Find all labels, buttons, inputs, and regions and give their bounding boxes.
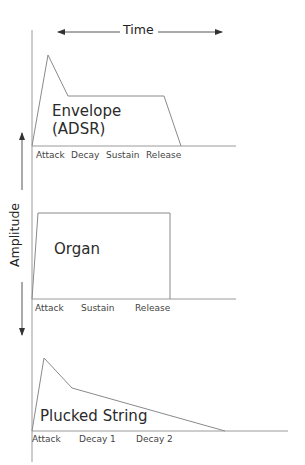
adsr-phase-release: Release [146, 150, 181, 160]
adsr-phase-attack: Attack [36, 150, 65, 160]
plucked-phase-attack: Attack [32, 434, 61, 444]
organ-phase-sustain: Sustain [81, 303, 114, 313]
adsr-phase-decay: Decay [71, 150, 99, 160]
plucked-phase-decay2: Decay 2 [136, 434, 173, 444]
organ-phase-attack: Attack [35, 303, 64, 313]
organ-envelope-curve [32, 213, 170, 299]
plucked-string-title: Plucked String [40, 407, 147, 425]
envelope-diagram [0, 0, 305, 465]
adsr-title: Envelope [52, 102, 121, 120]
plucked-phase-decay1: Decay 1 [79, 434, 116, 444]
organ-phase-release: Release [135, 303, 170, 313]
adsr-subtitle: (ADSR) [52, 120, 105, 138]
time-label: Time [120, 22, 157, 37]
adsr-phase-sustain: Sustain [106, 150, 139, 160]
amplitude-label: Amplitude [7, 200, 22, 270]
organ-title: Organ [54, 240, 100, 258]
